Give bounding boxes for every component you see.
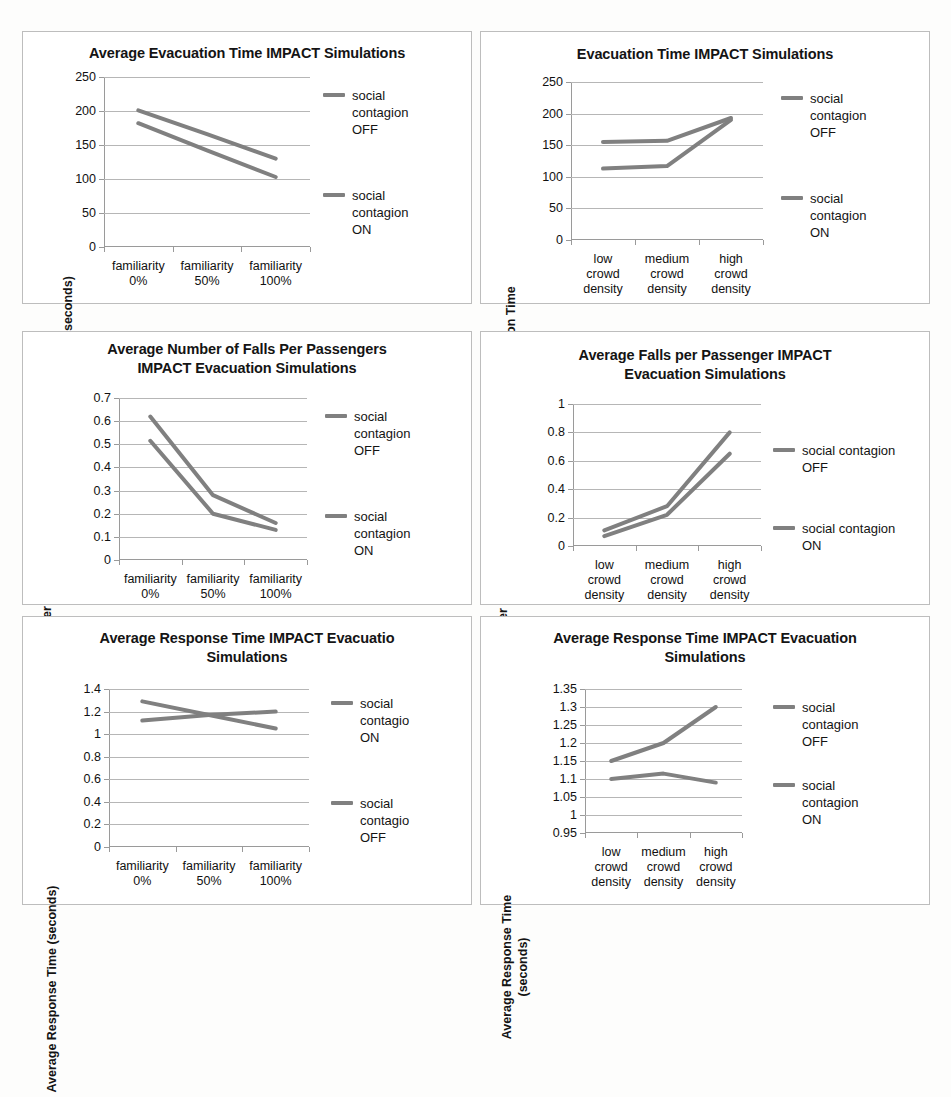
- x-tick-mark: [173, 247, 174, 252]
- x-tick-mark: [307, 560, 308, 565]
- x-tick-mark: [244, 560, 245, 565]
- x-tick-mark: [119, 560, 120, 565]
- y-tick-label: 1.15: [553, 755, 577, 767]
- legend-label: social contagion ON: [802, 520, 895, 554]
- x-category-label: familiarity 100%: [249, 572, 302, 602]
- plot-area-1: 050100150200250: [104, 77, 310, 247]
- series-lines-2: [571, 82, 763, 240]
- legend-swatch-icon: [773, 705, 795, 709]
- y-tick-label: 0.4: [94, 461, 111, 473]
- chart-title-3: Average Number of Falls Per Passengers I…: [23, 340, 471, 378]
- y-tick-label: 1: [558, 398, 565, 410]
- y-tick-label: 0.1: [94, 531, 111, 543]
- legend-label: social contagio ON: [360, 695, 409, 746]
- y-tick-label: 1.3: [560, 701, 577, 713]
- x-tick-mark: [104, 247, 105, 252]
- y-tick-label: 50: [549, 202, 563, 214]
- y-tick-label: 0.6: [94, 415, 111, 427]
- y-tick-label: 0.2: [84, 818, 101, 830]
- legend-swatch-icon: [323, 193, 345, 197]
- y-tick-label: 1.25: [553, 719, 577, 731]
- x-category-label: familiarity 0%: [112, 259, 165, 289]
- legend-swatch-icon: [781, 96, 803, 100]
- y-tick-label: 0.7: [94, 392, 111, 404]
- x-category-label: familiarity 0%: [124, 572, 177, 602]
- legend-swatch-icon: [773, 783, 795, 787]
- y-tick-label: 0.3: [94, 485, 111, 497]
- x-category-label: familiarity 100%: [249, 859, 302, 889]
- x-category-label: low crowd density: [591, 845, 631, 890]
- plot-area-3: 00.10.20.30.40.50.60.7: [119, 398, 307, 560]
- y-tick-label: 0.95: [553, 827, 577, 839]
- chart-title-5: Average Response Time IMPACT Evacuatio S…: [23, 629, 471, 667]
- x-tick-mark: [242, 847, 243, 852]
- x-tick-mark: [309, 847, 310, 852]
- y-tick-label: 0.4: [548, 483, 565, 495]
- legend-item[interactable]: social contagion OFF: [773, 699, 858, 750]
- series-lines-4: [573, 404, 761, 546]
- legend-item[interactable]: social contagion ON: [773, 520, 895, 554]
- series-line: [150, 417, 275, 524]
- y-axis-label-5: Average Response Time (seconds): [45, 873, 60, 1097]
- series-line: [603, 118, 731, 142]
- legend-label: social contagion OFF: [802, 442, 895, 476]
- legend-swatch-icon: [325, 514, 347, 518]
- legend-item[interactable]: social contagion OFF: [323, 87, 408, 138]
- y-tick-label: 0.8: [548, 426, 565, 438]
- y-tick-label: 0.4: [84, 796, 101, 808]
- y-tick-label: 0: [558, 540, 565, 552]
- y-tick-label: 0.6: [548, 455, 565, 467]
- x-category-label: familiarity 50%: [181, 259, 234, 289]
- x-category-label: high crowd density: [696, 845, 736, 890]
- legend-item[interactable]: social contagion OFF: [325, 408, 410, 459]
- x-tick-mark: [310, 247, 311, 252]
- x-tick-mark: [585, 833, 586, 838]
- legend-label: social contagion OFF: [354, 408, 410, 459]
- y-tick-label: 0.6: [84, 773, 101, 785]
- y-tick-label: 50: [82, 207, 96, 219]
- x-tick-mark: [761, 546, 762, 551]
- x-category-label: familiarity 50%: [187, 572, 240, 602]
- plot-area-5: 00.20.40.60.811.21.4: [109, 689, 309, 847]
- legend-swatch-icon: [773, 526, 795, 530]
- legend-item[interactable]: social contagion ON: [781, 190, 866, 241]
- legend-item[interactable]: social contagion OFF: [773, 442, 895, 476]
- x-tick-mark: [636, 546, 637, 551]
- legend-item[interactable]: social contagion ON: [323, 187, 408, 238]
- x-category-label: high crowd density: [711, 252, 751, 297]
- x-tick-mark: [635, 240, 636, 245]
- legend-label: social contagion ON: [354, 508, 410, 559]
- y-tick-label: 0.8: [84, 751, 101, 763]
- x-category-label: familiarity 0%: [116, 859, 169, 889]
- legend-item[interactable]: social contagion ON: [773, 777, 858, 828]
- legend-item[interactable]: social contagio OFF: [331, 795, 409, 846]
- y-tick-label: 1.05: [553, 791, 577, 803]
- y-tick-label: 250: [75, 71, 96, 83]
- x-tick-mark: [637, 833, 638, 838]
- legend-label: social contagion OFF: [810, 90, 866, 141]
- y-tick-label: 150: [75, 139, 96, 151]
- y-tick-label: 200: [542, 108, 563, 120]
- x-tick-mark: [571, 240, 572, 245]
- series-line: [603, 120, 731, 169]
- legend-item[interactable]: social contagion OFF: [781, 90, 866, 141]
- legend-swatch-icon: [781, 196, 803, 200]
- x-tick-mark: [742, 833, 743, 838]
- legend-swatch-icon: [323, 93, 345, 97]
- legend-item[interactable]: social contagion ON: [325, 508, 410, 559]
- y-axis-label-6: Average Response Time (seconds): [499, 867, 531, 1067]
- x-tick-mark: [763, 240, 764, 245]
- legend-item[interactable]: social contagio ON: [331, 695, 409, 746]
- legend-swatch-icon: [331, 801, 353, 805]
- x-category-label: familiarity 100%: [249, 259, 302, 289]
- x-tick-mark: [699, 240, 700, 245]
- x-category-label: medium crowd density: [645, 252, 689, 297]
- legend-label: social contagion OFF: [802, 699, 858, 750]
- x-tick-mark: [573, 546, 574, 551]
- x-category-label: low crowd density: [583, 252, 623, 297]
- legend-label: social contagion ON: [802, 777, 858, 828]
- y-tick-label: 0.2: [94, 508, 111, 520]
- series-line: [611, 707, 716, 761]
- y-tick-label: 100: [75, 173, 96, 185]
- series-lines-5: [109, 689, 309, 847]
